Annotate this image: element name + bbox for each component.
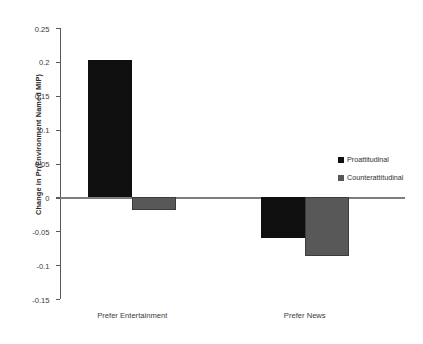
legend: ProattitudinalCounterattitudinal — [338, 155, 403, 182]
y-axis-tick-label: -0.15 — [32, 295, 49, 304]
legend-item-counterattitudinal: Counterattitudinal — [338, 173, 403, 182]
category-label: Prefer Entertainment — [97, 311, 167, 320]
legend-label: Proattitudinal — [347, 155, 389, 164]
y-axis-tick-label: 0.1 — [39, 126, 50, 135]
y-axis-tick: 0.1 — [56, 130, 61, 131]
legend-swatch-icon — [338, 157, 344, 163]
y-axis-tick-label: 0.25 — [35, 24, 50, 33]
legend-item-proattitudinal: Proattitudinal — [338, 155, 403, 164]
y-axis-tick-label: 0.15 — [35, 92, 50, 101]
y-axis-tick: 0.15 — [56, 96, 61, 97]
y-axis-tick: 0.05 — [56, 164, 61, 165]
bar-chart-figure: Change in Pr(Environment Named MIP) 0.25… — [0, 0, 423, 344]
y-axis-tick: 0.25 — [56, 28, 61, 29]
bar-proattitudinal-prefer-news — [261, 197, 305, 238]
y-axis-tick: 0.2 — [56, 62, 61, 63]
bar-proattitudinal-prefer-entertainment — [88, 60, 132, 198]
zero-baseline — [60, 197, 405, 198]
y-axis-tick: -0.15 — [56, 299, 61, 300]
legend-label: Counterattitudinal — [347, 173, 403, 182]
bar-counterattitudinal-prefer-entertainment — [132, 197, 176, 209]
y-axis-tick-label: -0.05 — [32, 227, 49, 236]
y-axis-spine — [60, 28, 61, 299]
y-axis-tick-label: 0.05 — [35, 160, 50, 169]
y-axis-tick: -0.05 — [56, 231, 61, 232]
y-axis-tick-label: 0.2 — [39, 58, 50, 67]
category-label: Prefer News — [284, 311, 326, 320]
y-axis-tick-label: 0 — [45, 193, 49, 202]
y-axis-tick: -0.1 — [56, 265, 61, 266]
legend-swatch-icon — [338, 175, 344, 181]
y-axis-tick-label: -0.1 — [36, 261, 49, 270]
bar-counterattitudinal-prefer-news — [305, 197, 349, 255]
